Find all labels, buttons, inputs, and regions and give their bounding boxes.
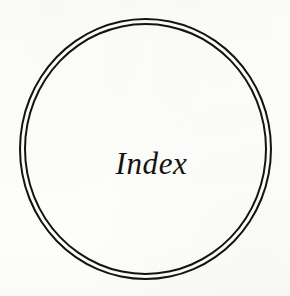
double-ring-emblem: Index	[19, 18, 272, 280]
section-title: Index	[19, 148, 272, 179]
divider-page: Index	[0, 0, 290, 296]
